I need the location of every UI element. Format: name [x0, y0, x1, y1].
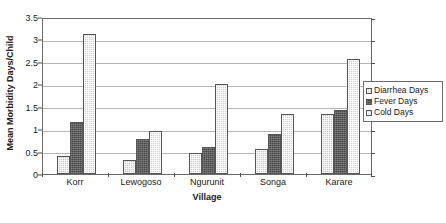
y-axis-title-text: Mean Morbidity Days/Child — [4, 35, 14, 150]
y-axis-title: Mean Morbidity Days/Child — [0, 0, 18, 185]
bar — [255, 149, 268, 174]
bar — [149, 131, 162, 174]
bar — [268, 134, 281, 174]
bar-group — [109, 19, 175, 174]
legend-item: Fever Days — [366, 96, 439, 107]
bar-group — [175, 19, 241, 174]
legend-swatch-icon — [366, 99, 372, 105]
bar — [189, 153, 202, 174]
bar — [215, 84, 228, 174]
legend-label: Fever Days — [374, 96, 417, 107]
legend-item: Cold Days — [366, 107, 439, 118]
bar — [136, 139, 149, 174]
x-axis-tick-label: Karare — [325, 177, 352, 187]
bar — [334, 110, 347, 174]
bar — [123, 160, 136, 174]
y-axis-tick-label: 2.5 — [25, 58, 38, 68]
x-axis-tick-label: Lewogoso — [120, 177, 161, 187]
x-axis-tick-mark — [174, 173, 175, 177]
bar — [83, 34, 96, 174]
x-axis-tick-mark — [42, 173, 43, 177]
legend-swatch-icon — [366, 110, 372, 116]
bar-group — [43, 19, 109, 174]
x-axis-tick-mark — [108, 173, 109, 177]
bar — [321, 114, 334, 174]
bar-chart: Mean Morbidity Days/Child 00.511.522.533… — [0, 0, 446, 223]
x-axis-tick-mark — [371, 173, 372, 177]
y-axis-tick-labels: 00.511.522.533.5 — [18, 13, 42, 176]
x-axis-title: Village — [42, 192, 372, 202]
x-axis-tick-mark — [240, 173, 241, 177]
bar-group — [241, 19, 307, 174]
y-axis-tick-label: 3.5 — [25, 13, 38, 23]
plot-area — [42, 18, 372, 175]
x-axis-tick-label: Korr — [66, 177, 83, 187]
x-axis-tick-labels: KorrLewogosoNgurunitSongaKarare — [42, 177, 372, 193]
legend-label: Cold Days — [374, 107, 413, 118]
legend-item: Diarrhea Days — [366, 85, 439, 96]
bar — [202, 147, 215, 174]
y-axis-tick-label: 0.5 — [25, 148, 38, 158]
legend-swatch-icon — [366, 88, 372, 94]
bar — [281, 114, 294, 174]
bars-layer — [43, 19, 371, 174]
bar — [57, 156, 70, 174]
x-axis-tick-mark — [306, 173, 307, 177]
x-axis-tick-label: Songa — [260, 177, 286, 187]
bar — [70, 122, 83, 174]
x-axis-tick-label: Ngurunit — [190, 177, 224, 187]
y-axis-tick-label: 1.5 — [25, 103, 38, 113]
bar — [347, 59, 360, 174]
chart-legend: Diarrhea DaysFever DaysCold Days — [363, 81, 443, 122]
legend-label: Diarrhea Days — [374, 85, 428, 96]
